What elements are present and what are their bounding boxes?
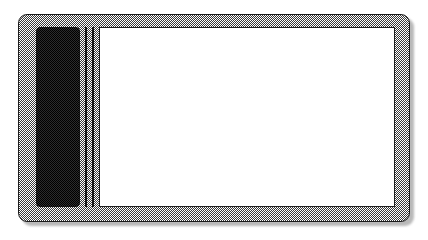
device-diagram-figure — [0, 0, 428, 240]
main-screen — [99, 27, 395, 207]
left-dark-panel — [36, 27, 80, 207]
screen-surface — [100, 28, 394, 206]
divider-line-2 — [92, 27, 94, 207]
divider-line-1 — [85, 27, 87, 207]
